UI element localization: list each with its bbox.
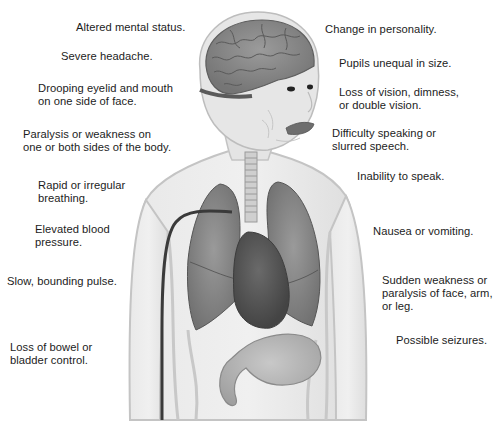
label-pupils-unequal: Pupils unequal in size.	[339, 57, 451, 70]
label-rapid-breathing: Rapid or irregular breathing.	[38, 179, 125, 205]
label-drooping-eyelid: Drooping eyelid and mouth on one side of…	[38, 82, 173, 108]
label-nausea: Nausea or vomiting.	[373, 225, 473, 238]
label-slow-pulse: Slow, bounding pulse.	[7, 275, 117, 288]
label-severe-headache: Severe headache.	[61, 50, 153, 63]
right-eye	[307, 85, 313, 90]
label-difficulty-speaking: Difficulty speaking or slurred speech.	[332, 127, 436, 153]
left-eye	[287, 87, 295, 92]
label-seizures: Possible seizures.	[396, 334, 487, 347]
label-loss-vision: Loss of vision, dimness, or double visio…	[339, 86, 459, 112]
label-loss-bowel: Loss of bowel or bladder control.	[10, 341, 92, 367]
label-altered-mental-status: Altered mental status.	[76, 21, 185, 34]
head	[200, 12, 319, 150]
label-elevated-bp: Elevated blood pressure.	[35, 223, 110, 249]
symptoms-figure: Altered mental status. Severe headache. …	[0, 0, 493, 437]
label-paralysis-weakness: Paralysis or weakness on one or both sid…	[23, 128, 171, 154]
figure-caption-cropped	[0, 426, 493, 437]
label-sudden-weakness: Sudden weakness or paralysis of face, ar…	[382, 274, 493, 313]
label-change-personality: Change in personality.	[325, 23, 437, 36]
trachea	[245, 152, 257, 222]
label-inability-speak: Inability to speak.	[357, 170, 444, 183]
